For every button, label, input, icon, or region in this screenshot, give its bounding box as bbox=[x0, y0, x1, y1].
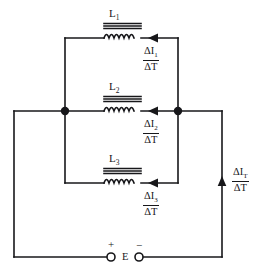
current-label-dI1-numerator-sub: 1 bbox=[154, 51, 158, 59]
arrow-branch-2-icon bbox=[148, 107, 158, 116]
inductor-label-L2: L2 bbox=[109, 81, 119, 95]
current-label-dI2: ΔI2 ΔT bbox=[143, 118, 159, 145]
inductor-L1-coil bbox=[104, 35, 134, 39]
inductor-L3-symbol bbox=[104, 169, 141, 184]
current-label-dI2-numerator: ΔI2 bbox=[143, 118, 159, 134]
current-label-dIT-numerator-main: ΔI bbox=[233, 166, 243, 177]
junction-dot-left bbox=[61, 107, 69, 115]
arrow-total-icon bbox=[218, 176, 227, 186]
circuit-schematic-svg bbox=[0, 0, 268, 275]
current-label-dI3: ΔI3 ΔT bbox=[143, 190, 159, 217]
source-terminal-positive bbox=[107, 253, 115, 261]
inductor-label-L3: L3 bbox=[109, 153, 119, 167]
current-label-dI2-numerator-main: ΔI bbox=[144, 118, 154, 129]
current-label-dIT-numerator-sub: T bbox=[243, 172, 247, 180]
current-label-dI1-denominator: ΔT bbox=[143, 61, 159, 73]
current-label-dIT-denominator: ΔT bbox=[232, 182, 249, 194]
inductor-label-L3-main: L bbox=[109, 152, 116, 164]
current-label-dI3-numerator-sub: 3 bbox=[154, 196, 158, 204]
current-label-dI1-numerator: ΔI1 bbox=[143, 45, 159, 61]
current-label-dI3-numerator-main: ΔI bbox=[144, 190, 154, 201]
current-label-dI2-numerator-sub: 2 bbox=[154, 124, 158, 132]
arrow-branch-1-icon bbox=[148, 34, 158, 43]
current-label-dI3-numerator: ΔI3 bbox=[143, 190, 159, 206]
inductor-label-L3-sub: 3 bbox=[116, 158, 120, 167]
current-label-dIT: ΔIT ΔT bbox=[232, 166, 249, 193]
source-terminal-negative bbox=[135, 253, 143, 261]
source-label-E: E bbox=[122, 252, 128, 263]
source-polarity-plus: + bbox=[108, 239, 114, 250]
junction-dot-right bbox=[174, 107, 182, 115]
current-label-dI1-numerator-main: ΔI bbox=[144, 45, 154, 56]
inductor-L1-symbol bbox=[104, 24, 141, 39]
inductor-label-L1-sub: 1 bbox=[116, 13, 120, 22]
inductor-label-L2-main: L bbox=[109, 80, 116, 92]
current-label-dI1: ΔI1 ΔT bbox=[143, 45, 159, 72]
current-label-dIT-numerator: ΔIT bbox=[232, 166, 249, 182]
source-polarity-minus: − bbox=[136, 240, 142, 251]
circuit-diagram-canvas: L1 L2 L3 ΔI1 ΔT ΔI2 ΔT ΔI3 ΔT ΔIT ΔT + −… bbox=[0, 0, 268, 275]
inductor-L2-symbol bbox=[104, 97, 141, 112]
inductor-label-L1-main: L bbox=[109, 7, 116, 19]
current-label-dI3-denominator: ΔT bbox=[143, 206, 159, 218]
inductor-L3-coil bbox=[104, 180, 134, 184]
arrow-branch-3-icon bbox=[148, 179, 158, 188]
inductor-label-L2-sub: 2 bbox=[116, 86, 120, 95]
inductor-label-L1: L1 bbox=[109, 8, 119, 22]
current-label-dI2-denominator: ΔT bbox=[143, 134, 159, 146]
inductor-L2-coil bbox=[104, 108, 134, 112]
